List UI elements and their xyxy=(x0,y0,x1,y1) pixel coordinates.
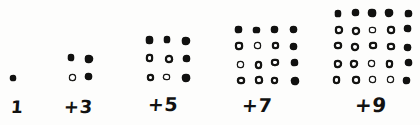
handwritten-figure: 1+3+5+7+9 xyxy=(0,0,420,125)
dot-filled xyxy=(405,59,412,66)
dot-hollow xyxy=(335,26,343,34)
dot-filled xyxy=(405,10,412,17)
dot-filled xyxy=(404,44,411,51)
dot-hollow xyxy=(369,42,377,50)
dot-hollow xyxy=(386,60,394,68)
dot-hollow xyxy=(334,60,342,68)
dot-filled xyxy=(335,10,342,17)
dot-hollow xyxy=(352,76,360,84)
dot-hollow xyxy=(387,43,395,51)
dot-hollow xyxy=(333,76,340,83)
dot-hollow xyxy=(387,26,395,34)
dot-hollow xyxy=(352,27,360,35)
dot-filled xyxy=(352,9,359,16)
dot-filled xyxy=(385,9,393,17)
group-label-plus9: +9 xyxy=(354,95,387,115)
dot-hollow xyxy=(369,76,376,83)
dot-hollow xyxy=(369,27,376,34)
dot-hollow xyxy=(387,76,394,83)
dot-hollow xyxy=(351,43,359,51)
dot-hollow xyxy=(334,42,342,50)
dot-filled xyxy=(368,9,376,17)
dot-filled xyxy=(403,77,410,84)
dot-filled xyxy=(404,25,411,32)
dot-hollow xyxy=(350,60,358,68)
dot-hollow xyxy=(368,60,375,67)
